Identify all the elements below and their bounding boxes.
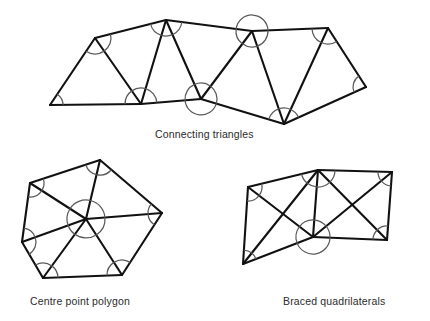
survey-line (50, 38, 95, 105)
survey-line (252, 31, 284, 124)
angle-arc (381, 181, 391, 186)
survey-line (95, 20, 166, 38)
survey-line (141, 99, 201, 104)
survey-line (86, 219, 122, 275)
diagram-centre-point-polygon (22, 160, 162, 278)
angle-arc (28, 191, 42, 197)
survey-line (22, 183, 30, 242)
angle-arc (70, 200, 90, 209)
survey-line (313, 170, 318, 237)
angle-arc (148, 204, 151, 214)
angle-arc (24, 228, 35, 237)
angle-arc (67, 209, 70, 226)
braced-quadrilaterals-lines (243, 170, 392, 264)
angle-arc (211, 86, 217, 103)
survey-line (387, 172, 392, 240)
survey-line (95, 38, 141, 104)
survey-network-figure: Connecting trianglesCentre point polygon… (0, 0, 430, 321)
connecting-triangles-lines (50, 20, 366, 124)
angle-arc (42, 179, 44, 191)
survey-line (201, 99, 284, 124)
angle-arc (314, 220, 326, 226)
survey-line (248, 187, 313, 237)
angle-arc (321, 41, 336, 44)
survey-line (252, 28, 328, 31)
angle-arc (57, 94, 63, 105)
angle-arc (114, 260, 130, 262)
survey-line (318, 170, 392, 172)
angle-arc (377, 226, 388, 230)
angle-arc (125, 91, 132, 104)
angle-arc (257, 30, 268, 46)
survey-line (141, 20, 166, 104)
angle-arc (86, 165, 97, 175)
survey-line (30, 183, 86, 219)
survey-line (50, 104, 141, 105)
angle-arc (326, 226, 330, 237)
survey-line (201, 31, 252, 99)
caption-braced-quadrilaterals: Braced quadrilaterals (283, 295, 385, 307)
survey-line (166, 20, 201, 99)
angle-arc (373, 230, 377, 239)
angle-arc (291, 109, 299, 117)
angle-arc (312, 29, 321, 43)
angle-arc (150, 24, 161, 35)
angle-arc (75, 234, 96, 238)
angle-arc (259, 184, 262, 196)
angle-arc (132, 88, 146, 91)
angle-arc (185, 84, 195, 100)
survey-line (22, 242, 43, 278)
angle-arc (35, 263, 51, 266)
survey-line (122, 213, 162, 275)
angle-arc (96, 218, 105, 235)
angle-arc (172, 22, 181, 35)
angle-arc (195, 83, 211, 86)
angle-arc (330, 170, 335, 182)
diagram-connecting-triangles (50, 15, 366, 124)
angle-arc (244, 250, 252, 253)
caption-centre-point-polygon: Centre point polygon (30, 295, 130, 307)
angle-arc (301, 174, 307, 183)
survey-line (43, 219, 86, 278)
angle-arc (242, 44, 257, 47)
centre-point-polygon-lines (22, 160, 162, 278)
angle-arc (104, 34, 111, 51)
caption-connecting-triangles: Connecting triangles (155, 128, 254, 140)
angle-arc (296, 227, 300, 243)
angle-arc (300, 220, 315, 227)
angle-arc (307, 183, 316, 187)
angle-arc (269, 109, 279, 120)
angle-arc (146, 89, 157, 103)
survey-line (43, 275, 122, 278)
angle-arc (97, 170, 112, 175)
angle-arc (86, 51, 104, 54)
survey-line (328, 28, 366, 87)
angle-arc (90, 201, 105, 218)
diagram-braced-quadrilaterals (243, 170, 392, 264)
angle-arc (236, 29, 242, 44)
angle-arc (148, 214, 154, 225)
angle-arc (236, 15, 268, 30)
figure-canvas: Connecting trianglesCentre point polygon… (0, 0, 430, 321)
angle-arc (279, 108, 291, 109)
angle-arc (252, 253, 256, 259)
angle-arc (247, 196, 259, 201)
angle-arc (378, 172, 381, 181)
angle-arc (52, 266, 58, 278)
survey-line (100, 160, 162, 213)
angle-arc (161, 35, 172, 36)
survey-line (86, 213, 162, 219)
survey-line (243, 187, 248, 264)
angle-arc (107, 262, 114, 275)
angle-arc (68, 225, 75, 234)
centre-point-polygon-angle-marks (24, 165, 155, 278)
survey-line (313, 237, 387, 240)
angle-arc (317, 182, 330, 187)
